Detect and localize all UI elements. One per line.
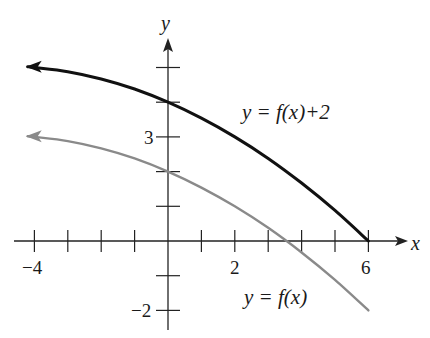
tick-label-x-2: 2 [230, 257, 240, 278]
function-graph: x y −4 2 6 3 −2 y = f(x)+2 y = f(x) [0, 0, 430, 338]
curve-f-plus-2 [28, 67, 369, 241]
y-axis-label: y [159, 12, 170, 35]
curves [26, 61, 369, 311]
lower-curve-arrow-icon [26, 130, 42, 142]
x-axis-label: x [410, 232, 420, 254]
tick-label-y-3: 3 [144, 127, 154, 148]
tick-label-x-6: 6 [361, 257, 371, 278]
upper-curve-label: y = f(x)+2 [240, 100, 330, 124]
tick-label-x-neg4: −4 [22, 257, 43, 278]
lower-curve-label: y = f(x) [242, 285, 307, 309]
curve-f [28, 136, 369, 310]
tick-label-y-neg2: −2 [131, 300, 151, 321]
axes [14, 38, 408, 330]
